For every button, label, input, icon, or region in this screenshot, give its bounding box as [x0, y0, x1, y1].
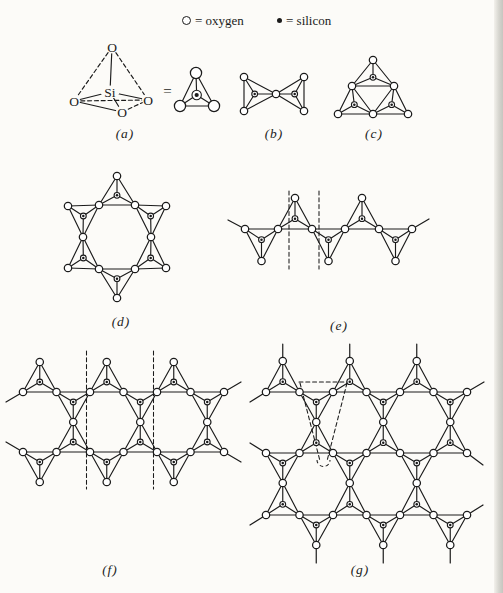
oxygen-atom	[447, 418, 454, 425]
oxygen-atom	[36, 358, 43, 365]
silicon-atom	[149, 257, 152, 260]
oxygen-atom	[291, 194, 298, 201]
oxygen-atom	[162, 264, 169, 271]
oxygen-atom	[413, 479, 420, 486]
panel-label-a: (a)	[116, 126, 135, 142]
oxygen-atom	[258, 257, 265, 264]
oxygen-atom	[363, 449, 370, 456]
oxygen-atom	[208, 100, 219, 111]
oxygen-atom	[70, 418, 77, 425]
panel-label-f: (f)	[102, 562, 118, 578]
silicon-atom	[39, 461, 42, 464]
silicon-atom	[72, 401, 75, 404]
silicon-atom	[416, 380, 419, 383]
oxygen-atom	[341, 225, 348, 232]
oxygen-atom	[300, 107, 307, 114]
oxygen-atom	[404, 110, 411, 117]
silicon-atom	[82, 215, 85, 218]
oxygen-atom	[325, 257, 332, 264]
oxygen-atom	[346, 479, 353, 486]
oxygen-atom	[463, 449, 470, 456]
oxygen-atom	[463, 511, 470, 518]
oxygen-atom	[103, 358, 110, 365]
oxygen-atom	[64, 202, 71, 209]
oxygen-atom	[120, 448, 127, 455]
oxygen-atom	[430, 511, 437, 518]
oxygen-atom	[113, 294, 120, 301]
oxygen-atom	[329, 511, 336, 518]
oxygen-atom	[220, 388, 227, 395]
silicon-atom	[390, 103, 393, 106]
oxygen-atom	[147, 233, 154, 240]
oxygen-atom	[204, 418, 211, 425]
silicon-atom	[327, 238, 330, 241]
oxygen-atom	[308, 225, 315, 232]
oxygen-atom	[170, 358, 177, 365]
silicon-atom	[139, 441, 142, 444]
atom-label-o: O	[69, 94, 79, 109]
panel-b	[240, 73, 307, 114]
silicon-atom	[72, 441, 75, 444]
oxygen-atom	[369, 56, 376, 63]
oxygen-atom	[313, 541, 320, 548]
panel-label-e: (e)	[330, 318, 348, 334]
silicon-atom	[173, 381, 176, 384]
oxygen-atom	[153, 448, 160, 455]
silicon-atom	[173, 461, 176, 464]
oxygen-atom	[430, 388, 437, 395]
silicon-atom	[106, 461, 109, 464]
oxygen-atom	[346, 357, 353, 364]
oxygen-atom	[390, 82, 397, 89]
silicon-atom	[282, 380, 285, 383]
silicon-atom	[39, 381, 42, 384]
panel-label-g: (g)	[351, 562, 370, 578]
silicon-atom	[449, 441, 452, 444]
oxygen-atom	[86, 448, 93, 455]
oxygen-atom	[95, 265, 102, 272]
panel-f	[6, 351, 241, 489]
silicon-atom	[382, 524, 385, 527]
oxygen-atom	[53, 448, 60, 455]
panel-a-schematic	[174, 67, 219, 111]
silicon-atom	[353, 103, 356, 106]
oxygen-atom	[329, 388, 336, 395]
oxygen-atom	[131, 201, 138, 208]
silicon-atom	[349, 462, 352, 465]
oxygen-atom	[262, 511, 269, 518]
oxygen-atom	[131, 265, 138, 272]
oxygen-atom	[369, 110, 376, 117]
oxygen-atom	[241, 225, 248, 232]
silicon-atom	[206, 401, 209, 404]
oxygen-atom	[296, 511, 303, 518]
oxygen-atom	[348, 82, 355, 89]
oxygen-atom	[36, 478, 43, 485]
oxygen-atom	[447, 541, 454, 548]
oxygen-atom	[279, 357, 286, 364]
silicon-atom	[382, 441, 385, 444]
oxygen-atom	[392, 257, 399, 264]
silicon-atom	[416, 503, 419, 506]
oxygen-atom	[380, 418, 387, 425]
silicon-atom	[372, 76, 375, 79]
oxygen-atom	[463, 388, 470, 395]
oxygen-atom	[120, 388, 127, 395]
panel-label-d: (d)	[112, 314, 131, 330]
oxygen-atom	[137, 418, 144, 425]
silicon-atom	[315, 441, 318, 444]
oxygen-atom	[408, 225, 415, 232]
oxygen-atom	[187, 448, 194, 455]
silicon-atom	[349, 380, 352, 383]
silicon-atom	[382, 401, 385, 404]
silicon-atom	[293, 93, 296, 96]
silicon-atom	[116, 194, 119, 197]
oxygen-atom	[262, 449, 269, 456]
oxygen-atom	[334, 110, 341, 117]
oxygen-atom	[174, 100, 185, 111]
atom-label-o: O	[143, 93, 153, 108]
oxygen-atom	[363, 511, 370, 518]
oxygen-atom	[170, 478, 177, 485]
panel-label-c: (c)	[365, 126, 383, 142]
oxygen-atom	[430, 449, 437, 456]
oxygen-atom	[296, 388, 303, 395]
panel-d	[64, 172, 169, 301]
